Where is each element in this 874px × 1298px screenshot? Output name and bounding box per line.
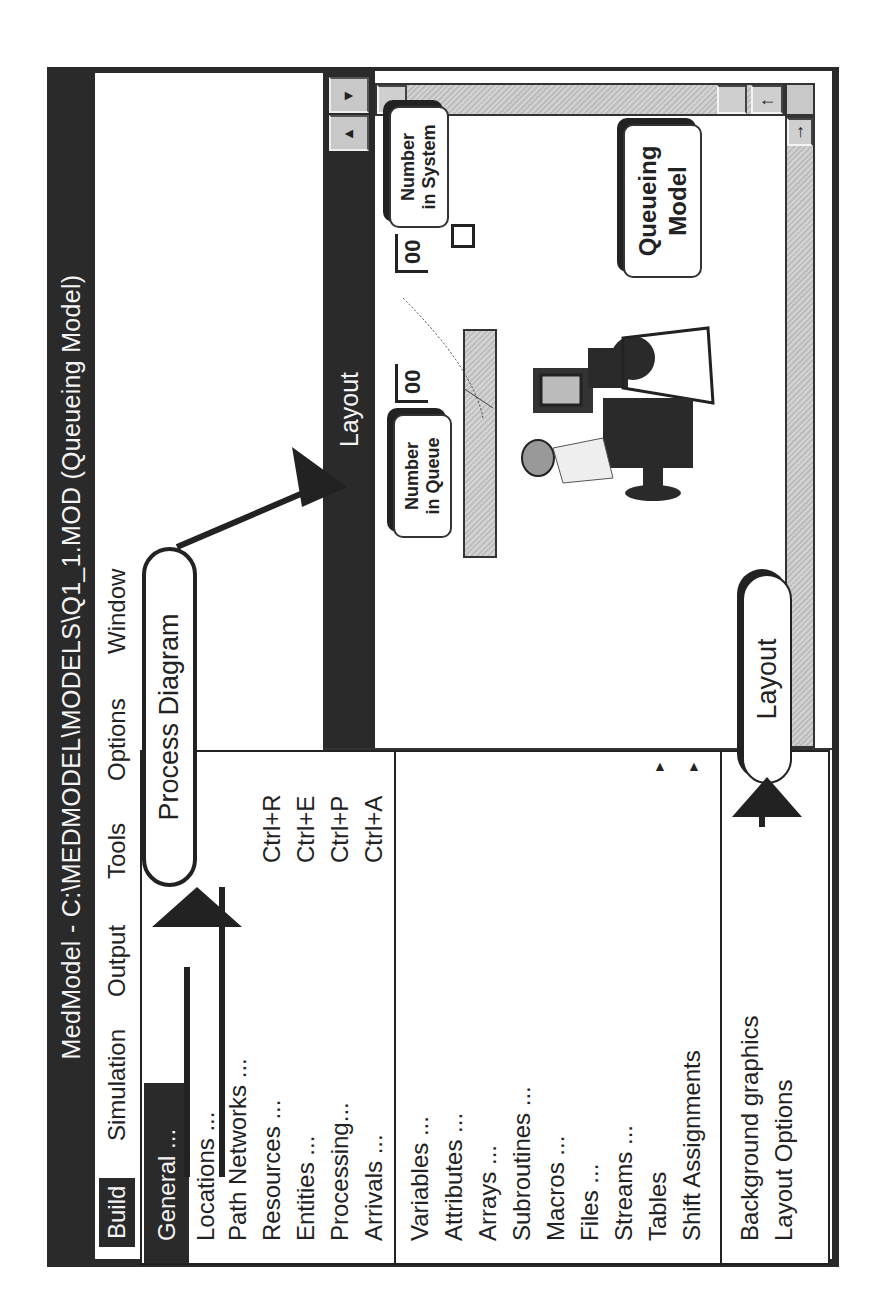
app-window: MedModel - C:\MEDMODEL\MODELS\Q1_1.MOD (… (47, 67, 839, 1267)
annotation-arrows (47, 67, 839, 1267)
